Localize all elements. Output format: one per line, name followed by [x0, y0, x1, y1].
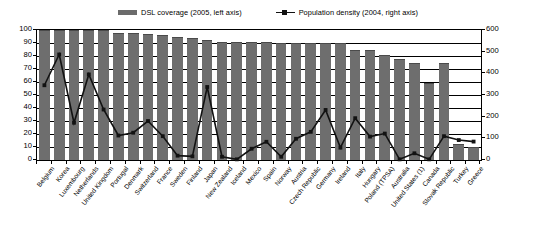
left-axis-tick-label: 80	[24, 51, 32, 59]
data-point-marker	[472, 140, 476, 144]
right-axis-tick-mark	[482, 137, 485, 138]
right-axis-tick-label: 500	[486, 47, 499, 55]
x-tick	[332, 160, 347, 164]
data-point-marker	[191, 154, 195, 158]
x-tick	[288, 160, 303, 164]
data-point-marker	[324, 108, 328, 112]
data-point-marker	[383, 132, 387, 136]
right-axis-tick-label: 100	[486, 133, 499, 141]
right-axis-tick-label: 600	[486, 25, 499, 33]
x-tick	[110, 160, 125, 164]
data-point-marker	[279, 155, 283, 159]
data-point-marker	[102, 108, 106, 112]
legend-label-population-density: Population density (2004, right axis)	[299, 8, 418, 17]
chart-legend: DSL coverage (2005, left axis) Populatio…	[0, 4, 536, 20]
x-tick	[95, 160, 110, 164]
bar-swatch-icon	[118, 10, 137, 15]
line-square-marker-icon	[276, 9, 295, 16]
right-axis: 0100200300400500600	[486, 29, 514, 159]
category-label-belgium: Belgium	[35, 165, 55, 188]
legend-label-dsl-coverage: DSL coverage (2005, left axis)	[141, 8, 242, 17]
x-tick	[347, 160, 362, 164]
x-tick	[391, 160, 406, 164]
right-axis-tick-label: 200	[486, 112, 499, 120]
chart-figure: DSL coverage (2005, left axis) Populatio…	[0, 0, 536, 236]
category-labels: BelgiumKoreaLuxembourgNetherlandsUnited …	[36, 165, 480, 235]
x-tick	[199, 160, 214, 164]
data-point-marker	[87, 73, 91, 77]
x-tick	[273, 160, 288, 164]
line-series-population-density	[37, 30, 481, 160]
right-axis-tick-label: 300	[486, 90, 499, 98]
data-point-marker	[43, 83, 47, 87]
left-axis-tick-label: 40	[24, 103, 32, 111]
x-tick	[450, 160, 465, 164]
population-density-line	[44, 54, 473, 159]
x-tick	[421, 160, 436, 164]
x-tick	[214, 160, 229, 164]
category-label-italy: Italy	[353, 165, 366, 179]
x-tick	[66, 160, 81, 164]
left-axis-tick-label: 70	[24, 64, 32, 72]
data-point-marker	[368, 135, 372, 139]
data-point-marker	[57, 53, 61, 57]
x-tick	[36, 160, 51, 164]
data-point-marker	[442, 134, 446, 138]
data-point-marker	[146, 119, 150, 123]
x-tick	[80, 160, 95, 164]
x-tick	[258, 160, 273, 164]
left-axis-tick-label: 30	[24, 116, 32, 124]
data-point-marker	[161, 134, 165, 138]
left-axis-tick-label: 60	[24, 77, 32, 85]
left-axis-tick-label: 20	[24, 129, 32, 137]
x-axis-ticks	[36, 160, 480, 164]
x-tick	[362, 160, 377, 164]
x-tick	[184, 160, 199, 164]
left-axis-tick-label: 10	[24, 142, 32, 150]
right-axis-tick-mark	[482, 159, 485, 160]
data-point-marker	[353, 116, 357, 120]
right-axis-tick-mark	[482, 51, 485, 52]
right-axis-tick-label: 400	[486, 68, 499, 76]
left-axis: 0102030405060708090100	[8, 29, 32, 159]
left-axis-tick-label: 0	[28, 155, 32, 163]
x-tick	[302, 160, 317, 164]
right-axis-tick-mark	[482, 72, 485, 73]
legend-item-population-density: Population density (2004, right axis)	[276, 8, 418, 17]
data-point-marker	[309, 130, 313, 134]
data-point-marker	[250, 147, 254, 151]
data-point-marker	[205, 85, 209, 89]
x-tick	[51, 160, 66, 164]
data-point-marker	[294, 137, 298, 141]
left-axis-tick-label: 100	[19, 25, 32, 33]
x-tick	[140, 160, 155, 164]
x-tick	[154, 160, 169, 164]
data-point-marker	[117, 134, 121, 138]
data-point-marker	[265, 140, 269, 144]
data-point-marker	[131, 131, 135, 135]
legend-item-dsl-coverage: DSL coverage (2005, left axis)	[118, 8, 242, 17]
x-tick	[317, 160, 332, 164]
data-point-marker	[220, 155, 224, 159]
data-point-marker	[72, 121, 76, 125]
data-point-marker	[339, 146, 343, 150]
right-axis-tick-mark	[482, 116, 485, 117]
right-axis-tick-label: 0	[486, 155, 490, 163]
x-tick	[465, 160, 480, 164]
plot-area	[36, 29, 482, 161]
right-axis-tick-mark	[482, 29, 485, 30]
data-point-marker	[176, 154, 180, 158]
x-tick	[436, 160, 451, 164]
left-axis-tick-label: 50	[24, 90, 32, 98]
data-point-marker	[457, 138, 461, 142]
x-tick	[228, 160, 243, 164]
x-tick	[406, 160, 421, 164]
x-tick	[125, 160, 140, 164]
right-axis-tick-mark	[482, 94, 485, 95]
x-tick	[376, 160, 391, 164]
category-label-ireland: Ireland	[334, 165, 352, 185]
x-tick	[169, 160, 184, 164]
left-axis-tick-label: 90	[24, 38, 32, 46]
x-tick	[243, 160, 258, 164]
data-point-marker	[413, 151, 417, 155]
